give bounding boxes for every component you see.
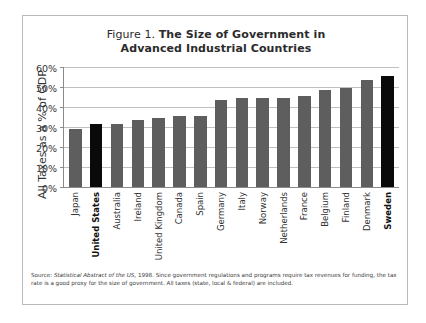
bar-finland[interactable]: [340, 88, 352, 187]
x-label-slot: Norway: [252, 189, 273, 269]
bar-slot: [148, 68, 169, 187]
chart-title-main-line2: Advanced Industrial Countries: [121, 42, 312, 55]
bar-australia[interactable]: [111, 124, 123, 187]
y-axis-tick-label: 40%: [36, 102, 57, 113]
x-axis-label-belgium: Belgium: [320, 192, 330, 227]
bar-slot: [315, 68, 336, 187]
x-axis-label-sweden: Sweden: [383, 192, 393, 230]
bar-belgium[interactable]: [319, 90, 331, 187]
bar-slot: [127, 68, 148, 187]
bar-united-kingdom[interactable]: [152, 118, 164, 187]
x-axis-label-germany: Germany: [216, 192, 226, 231]
x-axis-label-spain: Spain: [195, 192, 205, 216]
x-label-slot: France: [294, 189, 315, 269]
bar-series: [64, 68, 399, 187]
x-axis-label-japan: Japan: [70, 192, 80, 216]
y-axis-tick: [60, 187, 64, 188]
bar-italy[interactable]: [236, 98, 248, 187]
y-axis-tick-label: 30%: [36, 123, 57, 134]
x-label-slot: United States: [86, 189, 107, 269]
x-axis-label-united-states: United States: [91, 192, 101, 258]
x-label-slot: Finland: [336, 189, 357, 269]
bar-spain[interactable]: [194, 116, 206, 187]
bar-sweden[interactable]: [381, 76, 393, 187]
chart-title-prefix: Figure 1.: [107, 28, 159, 41]
bar-slot: [336, 68, 357, 187]
y-axis-tick-label: 50%: [36, 82, 57, 93]
figure-container: Figure 1. The Size of Government in Adva…: [22, 15, 408, 305]
x-axis-label-ireland: Ireland: [133, 192, 143, 221]
bar-germany[interactable]: [215, 100, 227, 187]
x-label-slot: Australia: [107, 189, 128, 269]
bar-slot: [211, 68, 232, 187]
bar-slot: [86, 68, 107, 187]
bar-japan[interactable]: [69, 129, 81, 187]
x-axis-label-france: France: [299, 192, 309, 220]
x-label-slot: Canada: [169, 189, 190, 269]
bar-canada[interactable]: [173, 116, 185, 187]
bar-slot: [377, 68, 398, 187]
source-label: Source:: [31, 272, 54, 278]
x-label-slot: Belgium: [315, 189, 336, 269]
y-axis-tick-label: 60%: [36, 63, 57, 74]
chart-title: Figure 1. The Size of Government in Adva…: [23, 28, 409, 56]
x-label-slot: Denmark: [356, 189, 377, 269]
bar-norway[interactable]: [256, 98, 268, 187]
x-label-slot: Japan: [65, 189, 86, 269]
x-axis-label-finland: Finland: [341, 192, 351, 222]
x-label-slot: Spain: [190, 189, 211, 269]
source-note: Source: Statistical Abstract of the US, …: [31, 271, 403, 287]
x-axis-label-denmark: Denmark: [362, 192, 372, 231]
bar-netherlands[interactable]: [277, 98, 289, 187]
bar-slot: [252, 68, 273, 187]
bar-slot: [65, 68, 86, 187]
bar-slot: [107, 68, 128, 187]
x-axis-label-italy: Italy: [237, 192, 247, 210]
x-axis-label-australia: Australia: [112, 192, 122, 230]
bar-slot: [169, 68, 190, 187]
bar-slot: [232, 68, 253, 187]
plot-area: 0%10%20%30%40%50%60%: [63, 68, 399, 188]
x-axis-category-labels: JapanUnited StatesAustraliaIrelandUnited…: [64, 189, 399, 269]
x-axis-label-netherlands: Netherlands: [279, 192, 289, 244]
x-label-slot: United Kingdom: [148, 189, 169, 269]
bar-ireland[interactable]: [132, 120, 144, 187]
bar-united-states[interactable]: [90, 124, 102, 187]
x-label-slot: Sweden: [377, 189, 398, 269]
bar-slot: [356, 68, 377, 187]
y-axis-tick-label: 20%: [36, 142, 57, 153]
x-axis-label-united-kingdom: United Kingdom: [154, 192, 164, 260]
bar-denmark[interactable]: [361, 80, 373, 187]
y-axis-tick-label: 10%: [36, 163, 57, 174]
x-label-slot: Italy: [232, 189, 253, 269]
source-work-title: Statistical Abstract of the US: [54, 272, 134, 278]
x-axis-label-norway: Norway: [258, 192, 268, 224]
bar-slot: [190, 68, 211, 187]
x-label-slot: Netherlands: [273, 189, 294, 269]
x-label-slot: Germany: [211, 189, 232, 269]
y-axis-tick-label: 0%: [42, 183, 57, 194]
bar-france[interactable]: [298, 96, 310, 187]
x-label-slot: Ireland: [127, 189, 148, 269]
bar-slot: [273, 68, 294, 187]
chart-title-main-line1: The Size of Government in: [159, 28, 326, 41]
bar-slot: [294, 68, 315, 187]
x-axis-label-canada: Canada: [174, 192, 184, 224]
